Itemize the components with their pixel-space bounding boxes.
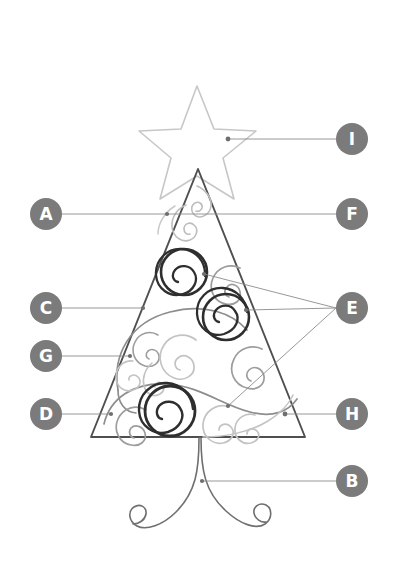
callout-badge-c[interactable]: C: [30, 292, 62, 324]
target-dot-b: [200, 479, 204, 483]
callout-badge-h[interactable]: H: [336, 398, 368, 430]
star-topper-icon: [139, 86, 256, 199]
dark-swirl-lower: [139, 383, 195, 436]
target-dot-h: [283, 412, 288, 417]
tree-trunk-curls: [130, 438, 271, 528]
callout-badge-g[interactable]: G: [30, 340, 62, 372]
tree-swirl-filigree: [104, 186, 297, 445]
callout-badge-d[interactable]: D: [30, 398, 62, 430]
leader-lines: [62, 139, 336, 481]
target-dot-i: [226, 137, 231, 142]
leader-line-e-2: [246, 308, 336, 310]
leader-line-e-3: [228, 308, 336, 406]
callout-badge-i[interactable]: I: [336, 123, 368, 155]
target-dot-e-2: [244, 308, 248, 312]
dark-swirl-upper: [156, 249, 207, 295]
callout-badge-b[interactable]: B: [336, 465, 368, 497]
target-dot-g: [128, 354, 132, 358]
target-dot-d: [109, 412, 113, 416]
target-dot-e-1: [202, 272, 206, 276]
target-dot-c: [141, 306, 145, 310]
christmas-tree-illustration: [0, 0, 394, 588]
callout-badge-a[interactable]: A: [30, 198, 62, 230]
diagram-canvas: A C G D I F E H B: [0, 0, 394, 588]
callout-badge-f[interactable]: F: [336, 198, 368, 230]
target-dot-a: [165, 212, 169, 216]
target-dot-e-3: [226, 404, 230, 408]
callout-badge-e[interactable]: E: [336, 292, 368, 324]
